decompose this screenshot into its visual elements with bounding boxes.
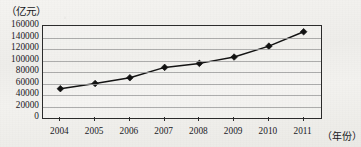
x-axis-tick-label: 2004 (50, 126, 69, 136)
x-axis-tick-mark (268, 117, 269, 121)
x-axis-tick-mark (233, 117, 234, 121)
y-axis-tick-label: 140000 (11, 32, 39, 41)
data-point-marker (161, 64, 168, 71)
x-axis-unit-label: （年份） (322, 128, 361, 143)
x-axis-tick-mark (59, 117, 60, 121)
x-axis-tick-mark (94, 117, 95, 121)
x-axis-tick-mark (129, 117, 130, 121)
y-axis-tick-label: 40000 (16, 89, 39, 98)
x-axis-tick-mark (164, 117, 165, 121)
x-axis-tick-mark (303, 117, 304, 121)
x-axis-tick-label: 2006 (120, 126, 139, 136)
gridline (43, 38, 321, 39)
data-point-marker (127, 74, 134, 81)
y-axis-tick-label: 0 (34, 112, 39, 121)
gridline (43, 61, 321, 62)
x-axis-tick-label: 2010 (259, 126, 278, 136)
chart-figure: （亿元） 02000040000600008000010000012000014… (0, 0, 361, 147)
x-axis-tick-label: 2011 (294, 126, 312, 136)
gridline (43, 72, 321, 73)
data-point-marker (57, 85, 64, 92)
y-axis-tick-label: 60000 (16, 78, 39, 87)
y-axis-tick-label: 100000 (11, 55, 39, 64)
gridline (43, 95, 321, 96)
y-axis-tick-label: 20000 (16, 101, 39, 110)
plot-area (42, 25, 322, 119)
x-axis-tick-label: 2008 (189, 126, 208, 136)
gridline (43, 107, 321, 108)
gridline (43, 49, 321, 50)
y-axis-tick-label: 160000 (11, 20, 39, 29)
y-axis-tick-label: 80000 (16, 66, 39, 75)
x-axis-tick-mark (198, 117, 199, 121)
x-axis-tick-label: 2005 (85, 126, 104, 136)
x-axis-tick-label: 2007 (154, 126, 173, 136)
data-point-marker (300, 28, 307, 35)
y-axis-tick-label: 120000 (11, 43, 39, 52)
y-axis-tick-labels: 0200004000060000800001000001200001400001… (0, 0, 39, 147)
data-point-marker (231, 54, 238, 61)
x-axis-tick-label: 2009 (224, 126, 243, 136)
gridline (43, 84, 321, 85)
